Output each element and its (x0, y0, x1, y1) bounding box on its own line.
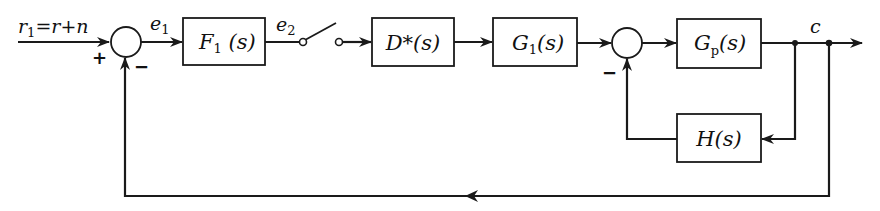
minus-sign: − (602, 62, 617, 83)
input-signal: r1=r+n (18, 15, 109, 42)
minus-sign: − (134, 56, 149, 77)
plus-sign: + (92, 47, 107, 68)
summing-junction-1: + − (92, 27, 149, 77)
svg-text:D*(s): D*(s) (385, 31, 441, 55)
block-d-star: D*(s) (372, 18, 454, 66)
block-gp: Gp(s) (677, 19, 761, 68)
svg-text:c: c (810, 15, 821, 37)
summing-junction-2: − (602, 28, 642, 83)
svg-text:F1 (s): F1 (s) (198, 30, 256, 56)
svg-text:Gp(s): Gp(s) (694, 31, 746, 58)
svg-text:G1(s): G1(s) (512, 31, 564, 57)
block-diagram: r1=r+n + − e1 F1 (s) e2 D*(s) G1(s) (0, 0, 880, 211)
output-signal: c (761, 15, 862, 46)
signal-e1: e1 (141, 12, 182, 42)
svg-text:r1=r+n: r1=r+n (18, 15, 89, 40)
sampler-switch: e2 (265, 13, 371, 46)
svg-text:e2: e2 (276, 13, 296, 38)
block-g1: G1(s) (493, 18, 577, 66)
svg-text:e1: e1 (150, 12, 170, 37)
block-f1: F1 (s) (183, 18, 265, 65)
svg-text:H(s): H(s) (695, 127, 741, 151)
